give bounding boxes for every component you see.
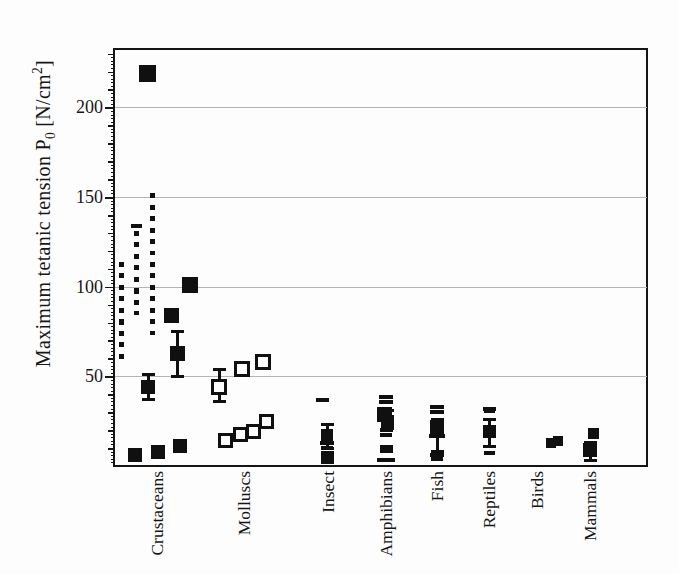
y-tick-mark	[111, 132, 115, 133]
y-tick-mark	[111, 444, 115, 445]
y-axis-title-superscript: 2	[30, 67, 45, 74]
y-tick-mark	[111, 136, 115, 137]
y-tick-mark	[111, 104, 115, 105]
y-tick-mark	[111, 262, 115, 263]
y-tick-mark	[111, 115, 115, 116]
data-dash-marker	[431, 457, 443, 461]
y-axis-title-bracket: ]	[32, 60, 54, 67]
y-tick-mark	[111, 61, 115, 62]
y-axis-title-units: [N/cm	[32, 74, 54, 132]
y-tick-mark	[111, 118, 115, 119]
y-tick-mark	[111, 100, 115, 101]
y-tick-mark	[111, 405, 115, 406]
error-bar-cap	[483, 418, 496, 421]
y-tick-mark	[108, 125, 114, 127]
y-tick-mark	[111, 111, 115, 112]
y-tick-mark	[111, 369, 115, 370]
y-tick-mark	[111, 423, 115, 424]
y-tick-mark	[111, 265, 115, 266]
y-tick-mark	[111, 462, 115, 463]
y-tick-mark	[111, 380, 115, 381]
data-point-marker	[139, 65, 156, 82]
data-dash-marker	[320, 441, 334, 445]
y-tick-mark	[111, 441, 115, 442]
y-tick-mark	[111, 459, 115, 460]
x-category-label: Amphibians	[376, 471, 397, 557]
y-tick-mark	[111, 351, 115, 352]
data-dash-marker	[316, 398, 329, 402]
y-tick-mark	[111, 122, 115, 123]
y-tick-mark	[111, 193, 115, 194]
y-tick-mark	[111, 158, 115, 159]
y-tick-label: 50	[63, 366, 103, 386]
x-category-label: Reptiles	[479, 471, 500, 528]
y-tick-mark	[111, 330, 115, 331]
y-tick-mark	[111, 64, 115, 65]
y-tick-mark	[111, 455, 115, 456]
y-tick-mark	[108, 215, 114, 217]
y-tick-mark	[111, 226, 115, 227]
y-tick-mark	[111, 258, 115, 259]
data-dash-marker	[377, 458, 395, 462]
y-tick-mark	[111, 201, 115, 202]
x-category-label: Fish	[427, 471, 448, 501]
y-tick-mark	[111, 315, 115, 316]
x-category-label: Crustaceans	[147, 471, 168, 556]
error-bar-cap	[584, 459, 597, 462]
data-point-marker	[588, 428, 599, 439]
y-tick-mark	[111, 362, 115, 363]
y-tick-mark	[111, 183, 115, 184]
y-gridline	[115, 197, 647, 198]
data-point-marker	[430, 420, 444, 434]
data-point-marker	[128, 448, 142, 462]
y-tick-mark	[111, 434, 115, 435]
y-tick-mark	[111, 244, 115, 245]
y-tick-mark	[105, 107, 114, 109]
y-tick-mark	[111, 326, 115, 327]
y-tick-mark	[108, 89, 114, 91]
y-tick-mark	[108, 448, 114, 450]
y-tick-mark	[111, 419, 115, 420]
error-bar-cap	[142, 373, 155, 376]
y-tick-mark	[111, 348, 115, 349]
y-tick-mark	[111, 247, 115, 248]
y-axis-title-subscript: 0	[43, 132, 58, 139]
y-tick-mark	[111, 68, 115, 69]
y-tick-mark	[111, 79, 115, 80]
y-tick-mark	[111, 294, 115, 295]
y-tick-mark	[111, 208, 115, 209]
y-axis-title-text: Maximum tetanic tension P	[32, 139, 54, 367]
y-tick-mark	[111, 355, 115, 356]
y-tick-mark	[111, 86, 115, 87]
error-bar-cap	[321, 423, 334, 426]
data-dash-marker	[429, 434, 445, 438]
data-point-marker	[259, 414, 274, 429]
y-tick-mark	[111, 319, 115, 320]
y-tick-mark	[111, 176, 115, 177]
y-tick-mark	[108, 323, 114, 325]
y-tick-mark	[111, 452, 115, 453]
y-tick-mark	[111, 283, 115, 284]
y-tick-mark	[108, 72, 114, 74]
data-dash-marker	[484, 409, 495, 413]
data-point-marker	[234, 361, 250, 377]
y-tick-mark	[108, 358, 114, 360]
y-tick-mark	[111, 75, 115, 76]
x-category-label: Birds	[527, 471, 548, 509]
data-dash-marker	[131, 224, 142, 228]
y-tick-mark	[111, 154, 115, 155]
y-tick-mark	[111, 186, 115, 187]
y-tick-mark	[111, 204, 115, 205]
data-dash-marker	[484, 451, 495, 455]
data-point-marker	[553, 436, 563, 446]
data-point-marker	[218, 433, 233, 448]
x-category-label: Insect	[318, 471, 339, 513]
y-tick-mark	[105, 287, 114, 289]
y-tick-mark	[111, 147, 115, 148]
data-dash-marker	[321, 446, 333, 450]
y-tick-mark	[111, 409, 115, 410]
y-tick-mark	[111, 333, 115, 334]
y-tick-mark	[111, 301, 115, 302]
y-tick-mark	[111, 190, 115, 191]
data-point-marker	[483, 425, 496, 438]
